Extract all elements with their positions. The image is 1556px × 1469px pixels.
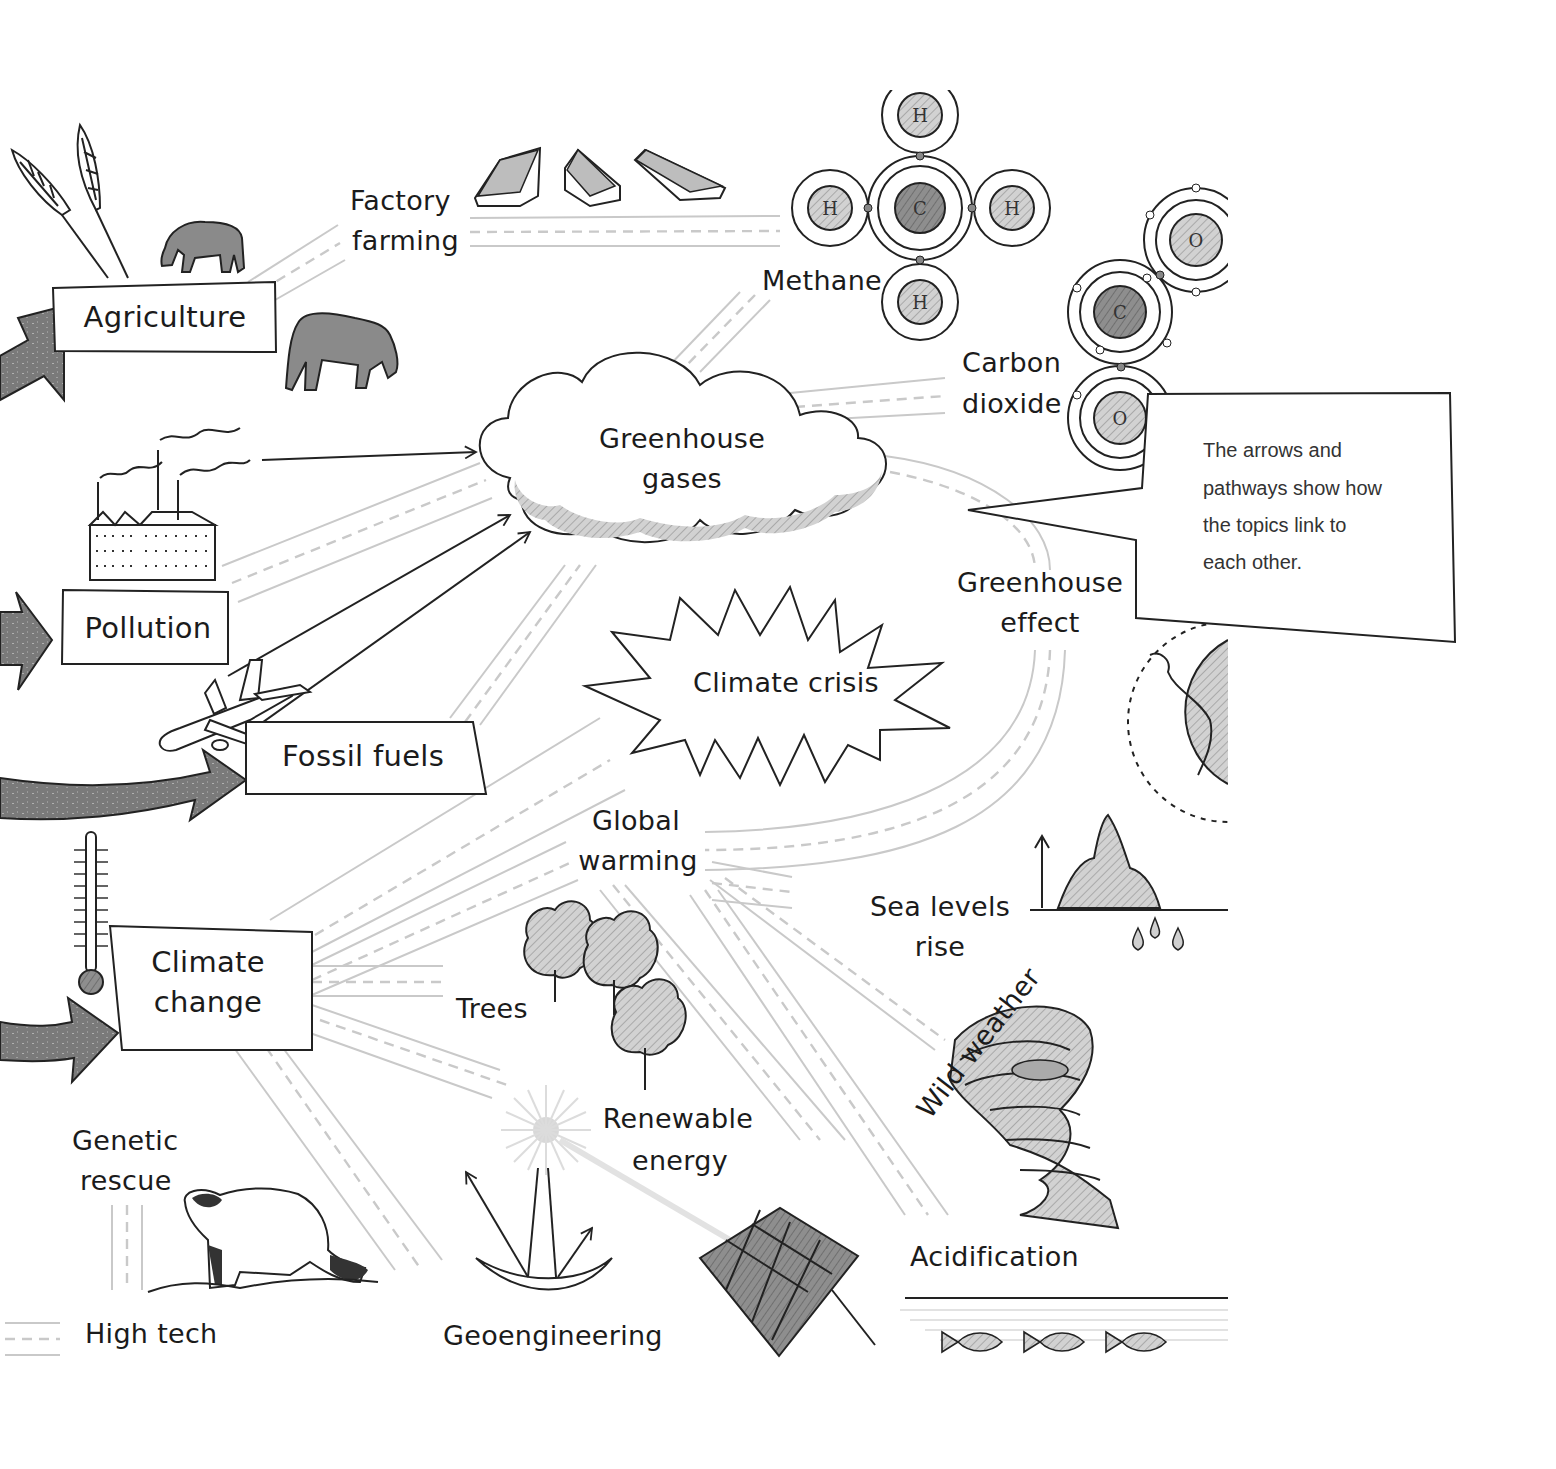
label-sea-levels-2: rise — [915, 931, 965, 962]
mirror-reflector-icon — [466, 1168, 612, 1290]
atom-label: O — [1189, 230, 1204, 251]
ferret-icon — [148, 1188, 378, 1292]
label-climate-change-1: Climate — [151, 945, 265, 979]
callout-line-4: each other. — [1203, 551, 1302, 573]
earth-icon — [1128, 622, 1228, 822]
atom-label: H — [912, 105, 928, 126]
label-renewable-energy-2: energy — [632, 1145, 728, 1176]
label-pollution: Pollution — [85, 611, 212, 645]
label-acidification: Acidification — [910, 1241, 1079, 1272]
callout-line-1: The arrows and — [1203, 439, 1342, 461]
arrow-to-pollution — [0, 592, 52, 690]
label-carbon-dioxide-1: Carbon — [962, 347, 1061, 378]
arrow-to-fossil-fuels — [0, 750, 246, 820]
wheat-icon — [12, 125, 128, 278]
label-geoengineering: Geoengineering — [443, 1320, 663, 1351]
label-global-warming-1: Global — [592, 805, 680, 836]
label-genetic-rescue-2: rescue — [80, 1165, 172, 1196]
label-greenhouse-effect-2: effect — [1000, 607, 1079, 638]
methane-molecule-icon: H H H H C — [792, 77, 1050, 340]
factory-icon — [90, 428, 250, 580]
label-genetic-rescue-1: Genetic — [72, 1125, 178, 1156]
label-global-warming-2: warming — [578, 845, 697, 876]
barns-icon — [475, 148, 725, 206]
atom-label: H — [822, 198, 838, 219]
label-trees: Trees — [455, 993, 528, 1024]
climate-mind-map: H H H H C O C O — [0, 0, 1556, 1469]
ocean-fish-icon — [900, 1298, 1228, 1352]
label-fossil-fuels: Fossil fuels — [282, 739, 444, 773]
label-factory-farming-1: Factory — [350, 185, 451, 216]
label-methane: Methane — [762, 265, 882, 296]
label-greenhouse-gases-2: gases — [642, 463, 722, 494]
atom-label: H — [912, 292, 928, 313]
label-greenhouse-effect-1: Greenhouse — [957, 567, 1123, 598]
label-greenhouse-gases-1: Greenhouse — [599, 423, 765, 454]
label-agriculture: Agriculture — [84, 300, 247, 334]
atom-label: C — [1113, 302, 1127, 323]
solar-panel-icon — [700, 1208, 875, 1356]
label-carbon-dioxide-2: dioxide — [962, 388, 1062, 419]
callout-line-3: the topics link to — [1203, 514, 1346, 536]
trees-icon — [524, 901, 686, 1090]
arrow-to-climate-change — [0, 998, 118, 1082]
callout-line-2: pathways show how — [1203, 477, 1383, 499]
label-renewable-energy-1: Renewable — [603, 1103, 753, 1134]
label-factory-farming-2: farming — [352, 225, 459, 256]
label-high-tech: High tech — [85, 1318, 218, 1349]
atom-label: C — [913, 198, 927, 219]
atom-label: O — [1113, 408, 1128, 429]
label-climate-crisis: Climate crisis — [693, 667, 879, 698]
atom-label: H — [1004, 198, 1020, 219]
thermometer-icon — [74, 832, 108, 994]
label-climate-change-2: change — [154, 985, 263, 1019]
iceberg-icon — [1030, 815, 1228, 950]
callout: The arrows and pathways show how the top… — [968, 393, 1455, 642]
label-sea-levels-1: Sea levels — [870, 891, 1010, 922]
